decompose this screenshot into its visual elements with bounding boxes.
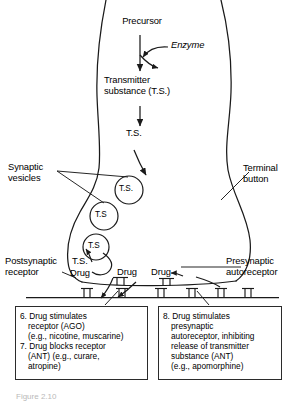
leader-synaptic-vesicles-lower	[57, 171, 104, 203]
postsynaptic-receptor-label-line2: receptor	[5, 267, 39, 278]
note-left-line-4: 7. Drug blocks receptor	[20, 341, 143, 351]
note-left-line-1: 6. Drug stimulates	[20, 311, 143, 321]
leader-synaptic-vesicles-upper	[57, 171, 128, 177]
note-left-line-5: (ANT) (e.g., curare,	[20, 351, 143, 361]
axon-right-wall	[221, 0, 250, 281]
ts-axon-label: T.S.	[126, 128, 142, 139]
note-box-right: 8. Drug stimulates presynaptic autorecep…	[158, 306, 282, 380]
synaptic-vesicles-label-line2: vesicles	[8, 173, 41, 184]
postsynaptic-receptor-3	[155, 289, 167, 298]
enzyme-label: Enzyme	[171, 40, 204, 51]
terminal-button-label-line1: Terminal	[243, 163, 278, 174]
leader-lines	[57, 171, 249, 305]
ts-to-vesicle-arrow	[134, 150, 146, 175]
drug-label-right: Drug	[151, 267, 171, 278]
transmitter-substance-label-line1: Transmitter	[104, 75, 150, 86]
presynaptic-autoreceptor-label-line1: Presynaptic	[226, 256, 274, 267]
note-left-line-6: atropine)	[20, 361, 143, 371]
presynaptic-autoreceptor-1	[113, 278, 128, 286]
enzyme-product-arrow	[140, 55, 158, 68]
drug-label-mid: Drug	[117, 267, 137, 278]
autoreceptor-pointer	[196, 277, 220, 287]
synaptic-vesicles-label-line1: Synaptic	[8, 162, 43, 173]
note-right-line-5: substance (ANT)	[163, 351, 277, 361]
drug-binds-receptor-arrow	[101, 278, 113, 298]
precursor-label: Precursor	[107, 16, 177, 27]
vesicle-1-label: T.S.	[119, 185, 133, 194]
note-left-line-3: (e.g., nicotine, muscarine)	[20, 331, 143, 341]
vesicle-3-label: T.S	[88, 242, 100, 251]
note-right-line-4: release of transmitter	[163, 341, 277, 351]
postsynaptic-receptor-1	[81, 289, 93, 298]
note-right-line-6: (e.g., apomorphine)	[163, 361, 277, 371]
released-ts-label: T.S.	[72, 256, 88, 267]
transmitter-substance-label-line2: substance (T.S.)	[104, 86, 170, 97]
postsynaptic-receptor-2	[116, 289, 128, 298]
drug-to-autoreceptor-arrow	[171, 273, 183, 276]
postsynaptic-receptor-6	[242, 289, 254, 298]
postsynaptic-receptor-4	[186, 289, 198, 298]
presynaptic-autoreceptor-label-line2: autoreceptor	[226, 267, 277, 278]
note-right-line-3: autoreceptor, inhibiting	[163, 331, 277, 341]
note-left-line-2: receptor (AGO)	[20, 321, 143, 331]
postsynaptic-receptor-5	[215, 289, 227, 298]
synapse-figure: Precursor Enzyme Transmitter substance (…	[0, 0, 299, 403]
drug-label-left: Drug	[70, 268, 90, 279]
terminal-button-label-line2: button	[243, 174, 268, 185]
vesicle-2-label: T.S	[95, 211, 107, 220]
enzyme-hook-arrow	[143, 47, 168, 57]
note-right-line-1: 8. Drug stimulates	[163, 311, 277, 321]
drug-blocks-receptor-arrow	[118, 282, 136, 297]
note-box-left: 6. Drug stimulates receptor (AGO) (e.g.,…	[15, 306, 148, 380]
figure-caption: Figure 2.10	[16, 392, 56, 401]
note-right-line-2: presynaptic	[163, 321, 277, 331]
postsynaptic-receptor-label-line1: Postsynaptic	[5, 256, 57, 267]
transmitter-synthesis-arrows	[134, 35, 168, 175]
